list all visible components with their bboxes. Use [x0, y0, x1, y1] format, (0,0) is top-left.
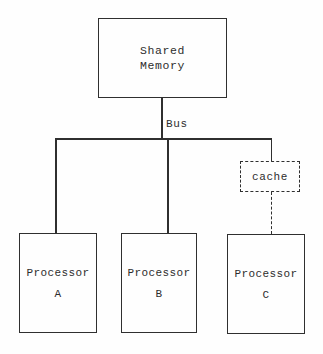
processor-c-labels: Processor C: [234, 268, 297, 301]
processor-a-labels: Processor A: [26, 267, 89, 300]
shared-memory-label-line2: Memory: [140, 59, 185, 72]
connector-cache-to-processor-c: [271, 192, 272, 234]
shared-memory-label-line1: Shared: [140, 44, 185, 57]
processor-a-box: Processor A: [19, 233, 97, 333]
bus-line: [55, 138, 272, 140]
processor-a-name: Processor: [26, 267, 89, 279]
processor-b-name: Processor: [127, 267, 190, 279]
connector-bus-to-processor-a: [55, 139, 57, 233]
bus-label: Bus: [166, 118, 188, 130]
cache-box: cache: [240, 161, 300, 192]
processor-c-id: C: [262, 289, 269, 301]
processor-a-id: A: [54, 288, 61, 300]
shared-memory-box: SharedMemory: [98, 18, 227, 98]
processor-b-box: Processor B: [121, 233, 197, 333]
cache-label: cache: [252, 171, 288, 183]
processor-c-name: Processor: [234, 268, 297, 280]
connector-bus-to-cache: [271, 139, 273, 162]
shared-memory-multiprocessor-diagram: SharedMemory Bus cache Processor A Proce…: [0, 0, 323, 354]
shared-memory-label: SharedMemory: [140, 43, 185, 73]
processor-c-box: Processor C: [227, 234, 305, 334]
processor-b-labels: Processor B: [127, 267, 190, 300]
connector-bus-to-processor-b: [167, 139, 169, 233]
connector-memory-to-bus: [161, 97, 163, 139]
processor-b-id: B: [155, 288, 162, 300]
